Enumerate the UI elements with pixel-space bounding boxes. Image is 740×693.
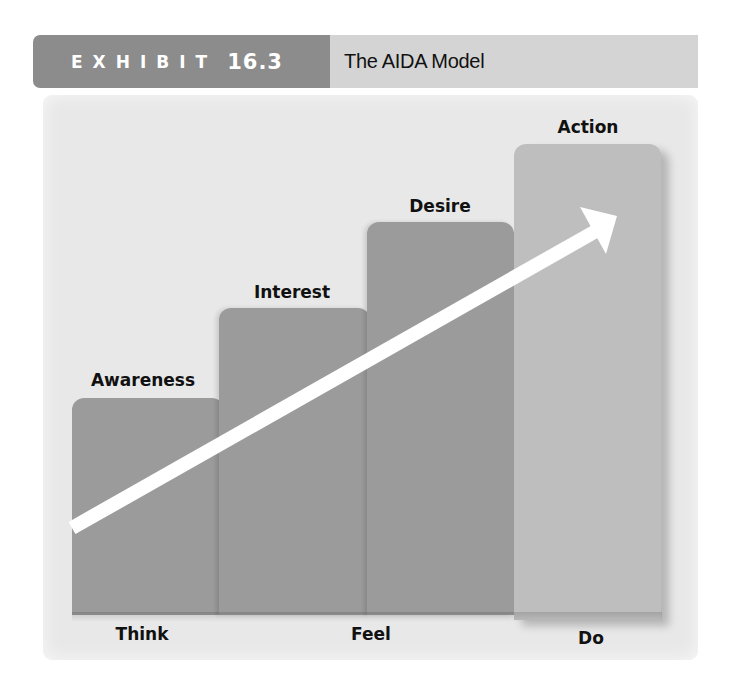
bars-bottom-shadow [72,612,662,622]
stage-label-action: Action [558,117,619,137]
exhibit-word: EXHIBIT [71,52,217,72]
phase-label-think: Think [116,624,169,644]
stage-label-desire: Desire [409,196,471,216]
bar-desire [367,222,514,615]
phase-label-do: Do [578,628,604,648]
stage-label-awareness: Awareness [91,370,195,390]
phase-label-feel: Feel [351,624,391,644]
exhibit-number: 16.3 [227,50,283,74]
bar-action [514,144,661,620]
bar-interest [219,308,370,615]
exhibit-tag: EXHIBIT 16.3 [33,35,330,88]
exhibit-header: EXHIBIT 16.3 The AIDA Model [33,35,698,88]
exhibit-title-band: The AIDA Model [330,35,698,88]
stage-label-interest: Interest [254,282,330,302]
bar-awareness [72,398,224,615]
exhibit-title: The AIDA Model [344,50,484,73]
